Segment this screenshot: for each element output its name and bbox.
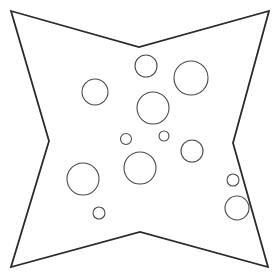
figure-canvas — [0, 0, 280, 279]
four-pointed-star-outline — [11, 11, 269, 267]
star-diagram — [0, 0, 280, 279]
